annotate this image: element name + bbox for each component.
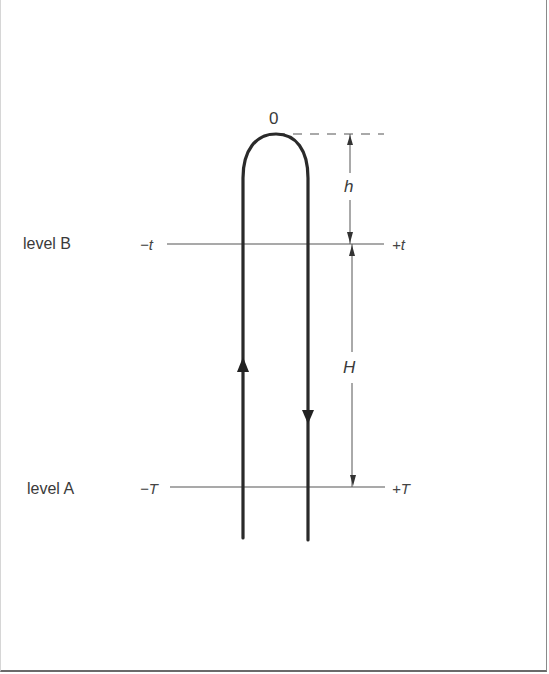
h-arrow-top-icon: [347, 135, 353, 145]
h-dimension-label: h: [344, 178, 353, 195]
H-arrow-top-icon: [349, 245, 355, 256]
level-a-left-label: −T: [140, 481, 158, 496]
trajectory-diagram: [0, 0, 549, 674]
level-a-right-label: +T: [392, 481, 410, 496]
level-b-right-label: +t: [392, 237, 405, 252]
H-dimension-label: H: [343, 359, 355, 376]
level-b-label: level B: [23, 236, 71, 252]
trajectory-path: [243, 134, 308, 540]
down-arrow-icon: [302, 410, 314, 424]
level-a-label: level A: [27, 481, 74, 497]
h-arrow-bottom-icon: [347, 232, 353, 243]
up-arrow-icon: [237, 357, 249, 372]
H-arrow-bottom-icon: [350, 475, 356, 486]
apex-label: 0: [269, 110, 278, 127]
level-b-left-label: −t: [140, 237, 153, 252]
